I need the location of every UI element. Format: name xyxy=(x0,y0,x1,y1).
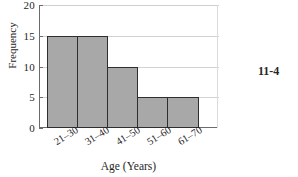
ytick-mark-5 xyxy=(39,97,43,98)
plot-right-edge xyxy=(217,5,218,128)
bar-series xyxy=(47,5,203,128)
ytick-mark-10 xyxy=(39,67,43,68)
x-axis-ticks: 21–30 31–40 41–50 51–60 61–70 xyxy=(47,131,203,161)
x-axis-title: Age (Years) xyxy=(39,160,218,173)
ytick-label-5: 5 xyxy=(1,92,35,103)
ytick-mark-15 xyxy=(39,36,43,37)
bar-31-40 xyxy=(77,36,108,128)
ytick-mark-0 xyxy=(39,128,43,129)
page-marker: 11-4 xyxy=(258,64,279,78)
histogram-figure: 20 15 10 5 0 Frequency 21–30 31–40 41–50… xyxy=(0,0,298,177)
y-axis-title: Frequency xyxy=(7,6,18,86)
ytick-label-0: 0 xyxy=(1,123,35,134)
bar-21-30 xyxy=(47,36,78,128)
ytick-mark-20 xyxy=(39,5,43,6)
